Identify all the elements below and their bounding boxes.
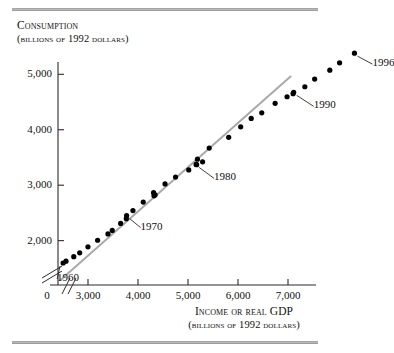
data-point-1993 xyxy=(312,76,317,81)
annotation-leader-lines xyxy=(57,56,372,279)
data-point-1983 xyxy=(207,146,212,151)
annotation-1980: 1980 xyxy=(214,170,236,182)
data-point-1971 xyxy=(130,208,135,213)
data-point-1994 xyxy=(327,68,332,73)
annotation-1990: 1990 xyxy=(314,98,336,110)
data-point-1961 xyxy=(63,259,68,264)
data-point-1966 xyxy=(105,231,110,236)
data-point-1986 xyxy=(249,116,254,121)
y-tick-label-3000: 3,000 xyxy=(6,178,52,190)
data-point-1991 xyxy=(290,91,295,96)
annotation-1960: 1960 xyxy=(57,271,79,283)
data-point-1963 xyxy=(77,250,82,255)
x-tick-label-4000: 4,000 xyxy=(115,289,161,301)
leader-line-1980 xyxy=(199,167,214,178)
axes xyxy=(50,62,316,285)
data-point-1964 xyxy=(85,244,90,249)
y-tick-label-2000: 2,000 xyxy=(6,234,52,246)
data-point-1978 xyxy=(186,167,191,172)
annotation-1970: 1970 xyxy=(141,220,163,232)
data-point-1968 xyxy=(118,221,123,226)
y-tick-label-5000: 5,000 xyxy=(6,67,52,79)
y-tick-label-4000: 4,000 xyxy=(6,123,52,135)
x-tick-label-6000: 6,000 xyxy=(215,289,261,301)
data-point-1970 xyxy=(124,213,129,218)
data-point-1995 xyxy=(337,60,342,65)
data-point-1962 xyxy=(71,254,76,259)
x-tick-label-7000: 7,000 xyxy=(265,289,311,301)
data-point-1987 xyxy=(259,110,264,115)
x-tick-label-0: 0 xyxy=(24,289,70,301)
annotation-1996: 1996 xyxy=(372,56,394,68)
data-point-1996 xyxy=(352,51,357,56)
data-point-1972 xyxy=(141,199,146,204)
leader-line-1990 xyxy=(297,95,314,106)
data-point-1965 xyxy=(95,238,100,243)
data-point-1982 xyxy=(195,157,200,162)
data-point-1977 xyxy=(173,175,178,180)
data-point-1967 xyxy=(110,228,115,233)
leader-line-1996 xyxy=(357,56,372,64)
x-tick-label-3000: 3,000 xyxy=(65,289,111,301)
data-points xyxy=(61,51,358,266)
data-point-1980 xyxy=(194,162,199,167)
data-point-1975 xyxy=(151,190,156,195)
leader-line-1970 xyxy=(130,219,141,228)
data-point-1981 xyxy=(200,159,205,164)
data-point-1992 xyxy=(302,84,307,89)
data-point-1989 xyxy=(284,94,289,99)
data-point-1984 xyxy=(226,135,231,140)
data-point-1985 xyxy=(238,124,243,129)
data-point-1976 xyxy=(162,181,167,186)
data-point-1988 xyxy=(273,101,278,106)
x-tick-label-5000: 5,000 xyxy=(165,289,211,301)
